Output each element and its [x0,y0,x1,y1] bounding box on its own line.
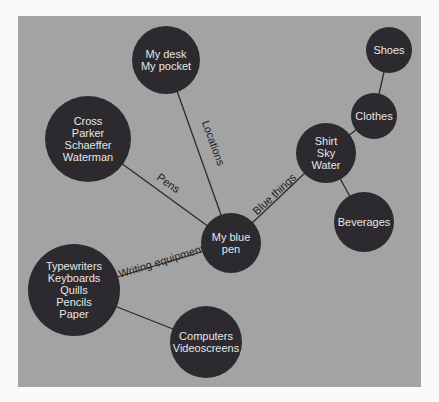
node-text: Sky [317,147,335,159]
node-text: My blue [212,231,251,243]
node-text: Schaeffer [65,139,112,151]
node-shoes: Shoes [366,27,412,73]
node-pens: Cross Parker Schaeffer Waterman [45,96,131,182]
node-text: pen [222,243,240,255]
node-text: Clothes [355,110,392,122]
node-my-blue-pen: My blue pen [201,213,261,273]
node-locations: My desk My pocket [132,26,200,94]
node-text: My desk [146,48,187,60]
node-text: Waterman [63,151,113,163]
node-text: My pocket [141,60,191,72]
node-text: Paper [59,308,88,320]
node-text: Cross [74,115,103,127]
node-text: Computers [179,330,233,342]
node-text: Water [312,159,341,171]
node-text: Pencils [56,296,91,308]
node-text: Parker [72,127,104,139]
node-text: Videoscreens [173,342,239,354]
node-text: Quills [60,284,88,296]
node-writing-equipment: Typewriters Keyboards Quills Pencils Pap… [28,244,120,336]
node-text: Shirt [315,135,338,147]
node-text: Typewriters [46,260,102,272]
node-blue-things: Shirt Sky Water [296,123,356,183]
node-computers: Computers Videoscreens [170,306,242,378]
node-clothes: Clothes [351,93,397,139]
node-beverages: Beverages [334,192,394,252]
node-text: Shoes [373,44,404,56]
node-text: Beverages [338,216,391,228]
node-text: Keyboards [48,272,101,284]
